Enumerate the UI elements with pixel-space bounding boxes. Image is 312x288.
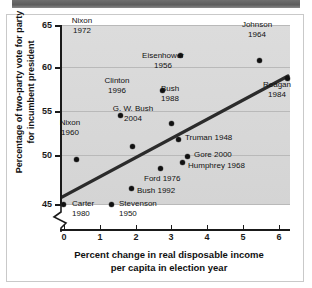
point-label-year: 1988	[161, 94, 179, 103]
point-label-name: Reagan	[263, 80, 291, 89]
data-point-truman-1948	[176, 137, 181, 142]
data-point-humphrey-1968	[180, 160, 185, 165]
point-label-name: Clinton	[105, 76, 130, 85]
point-label-name: Nixon	[60, 118, 80, 127]
point-label-name: Nixon	[72, 16, 92, 25]
point-label-name: Bush	[161, 84, 179, 93]
x-axis-title-line1: Percent change in real disposable income	[74, 249, 264, 260]
point-label-bush-1992: Bush 1992	[137, 186, 175, 196]
point-label-humphrey-1968: Humphrey 1968	[188, 161, 245, 171]
y-tick-mark-50	[55, 155, 61, 157]
data-point-bush-1992	[129, 186, 134, 191]
point-label-year: 1964	[248, 30, 266, 39]
x-tick-label-4: 4	[197, 232, 217, 242]
point-label-year: 1960	[61, 128, 79, 137]
x-tick-label-2: 2	[126, 232, 146, 242]
data-point-ford-1976	[158, 166, 163, 171]
point-label-nixon-1960: Nixon 1960	[48, 118, 92, 137]
point-label-year: 1956	[154, 61, 172, 70]
data-point-bush-1988	[169, 121, 174, 126]
point-label-truman-1948: Truman 1948	[185, 133, 232, 143]
x-tick-mark-2	[136, 225, 137, 230]
point-label-name: Eisenhower	[142, 51, 184, 60]
point-label-name: Ford 1976	[144, 174, 180, 183]
data-point-johnson-1964	[257, 58, 262, 63]
point-label-year: 1950	[119, 209, 137, 218]
x-tick-mark-3	[171, 225, 172, 230]
point-label-name: G. W. Bush	[113, 104, 153, 113]
point-label-name: Stevenson	[119, 199, 157, 208]
data-point-nixon-1960	[74, 157, 79, 162]
x-tick-label-6: 6	[269, 232, 289, 242]
point-label-gore-2000: Gore 2000	[194, 150, 232, 160]
point-label-name: Gore 2000	[194, 150, 232, 159]
x-tick-label-0: 0	[54, 232, 74, 242]
point-label-year: 1996	[108, 86, 126, 95]
x-tick-mark-6	[279, 225, 280, 230]
y-tick-mark-55	[55, 111, 61, 113]
point-label-name: Bush 1992	[137, 186, 175, 195]
x-tick-label-3: 3	[161, 232, 181, 242]
x-tick-mark-5	[243, 225, 244, 230]
point-label-name: Humphrey 1968	[188, 161, 245, 170]
point-label-carter-1980: Carter 1980	[72, 199, 94, 218]
point-label-name: Johnson	[242, 20, 272, 29]
y-tick-label-45: 45	[32, 199, 52, 209]
x-tick-label-5: 5	[233, 232, 253, 242]
x-tick-mark-0	[64, 225, 65, 230]
point-label-reagan-1984: Reagan 1984	[252, 80, 302, 99]
point-label-year: 1980	[72, 209, 90, 218]
point-label-gwbush-2004: G. W. Bush 2004	[102, 104, 164, 123]
y-tick-mark-60	[55, 67, 61, 69]
data-point-gore-2000	[185, 154, 190, 159]
point-label-stevenson-1950: Stevenson 1950	[119, 199, 157, 218]
y-axis-title-line1: Percentage of two-party vote for party	[14, 11, 24, 174]
data-point-gwbush-2004	[130, 144, 135, 149]
y-tick-mark-45	[55, 204, 61, 206]
point-label-year: 1984	[268, 90, 286, 99]
point-label-name: Carter	[72, 199, 94, 208]
x-tick-mark-1	[100, 225, 101, 230]
x-axis-title-line2: per capita in election year	[111, 262, 228, 273]
point-label-bush-1988: Bush 1988	[148, 84, 192, 103]
point-label-clinton-1996: Clinton 1996	[92, 76, 142, 95]
data-point-stevenson-1950	[109, 202, 114, 207]
y-axis-break-icon	[52, 204, 72, 232]
y-axis-line	[60, 25, 62, 205]
y-axis-title-line2: for incumbent president	[26, 41, 36, 144]
point-label-year: 1972	[73, 26, 91, 35]
x-tick-mark-4	[207, 225, 208, 230]
x-axis-title: Percent change in real disposable income…	[38, 248, 300, 274]
x-tick-label-1: 1	[90, 232, 110, 242]
point-label-nixon-1972: Nixon 1972	[52, 16, 112, 35]
scatter-chart-figure: 65 60 55 50 45 0 1 2 3 4 5 6 Nixon 1972 …	[0, 0, 312, 288]
point-label-year: 2004	[124, 114, 142, 123]
point-label-ford-1976: Ford 1976	[144, 174, 180, 184]
point-label-name: Truman 1948	[185, 133, 232, 142]
point-label-johnson-1964: Johnson 1964	[225, 20, 289, 39]
x-axis-line	[60, 229, 290, 231]
y-axis-title: Percentage of two-party vote for party f…	[13, 0, 37, 187]
point-label-eisenhower-1956: Eisenhower 1956	[128, 51, 198, 70]
